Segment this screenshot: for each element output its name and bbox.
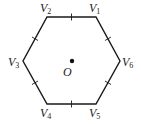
vertex-label-v4: V4: [40, 106, 51, 121]
vertex-label-v6: V6: [122, 55, 133, 70]
center-label: O: [63, 65, 72, 79]
vertex-label-v2: V2: [40, 1, 51, 16]
vertex-label-v1: V1: [89, 1, 100, 16]
vertex-label-v5: V5: [89, 106, 100, 121]
vertex-label-v3: V3: [8, 55, 19, 70]
hexagon-diagram: O V1 V2 V3 V4 V5 V6: [0, 0, 141, 124]
center-point: [70, 59, 74, 63]
